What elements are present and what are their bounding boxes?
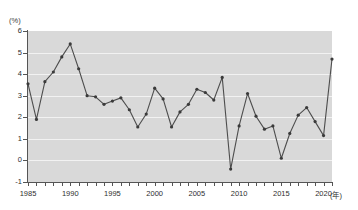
x-tick-mark-1990 [70, 183, 71, 186]
x-tick-mark-2004 [188, 183, 189, 186]
x-tick-label-1995: 1995 [97, 189, 127, 198]
x-tick-label-2005: 2005 [182, 189, 212, 198]
x-tick-mark-2021 [332, 183, 333, 186]
y-tick-label-6: 6 [2, 27, 22, 35]
y-tick-label-4: 4 [2, 70, 22, 78]
y-tick-mark-2 [23, 117, 27, 118]
x-tick-mark-2013 [264, 183, 265, 186]
x-tick-mark-2008 [222, 183, 223, 186]
y-tick-mark-6 [23, 31, 27, 32]
x-tick-mark-1999 [146, 183, 147, 186]
x-tick-mark-1991 [79, 183, 80, 186]
x-tick-label-2010: 2010 [224, 189, 254, 198]
gridline-y-0 [28, 160, 332, 161]
x-tick-mark-2019 [315, 183, 316, 186]
x-tick-mark-1987 [45, 183, 46, 186]
y-tick-mark-3 [23, 96, 27, 97]
gridline-y-5 [28, 53, 332, 54]
x-tick-label-2000: 2000 [140, 189, 170, 198]
x-tick-mark-2017 [298, 183, 299, 186]
x-axis-unit-label: (年) [330, 189, 342, 200]
x-tick-mark-1992 [87, 183, 88, 186]
x-tick-mark-2003 [180, 183, 181, 186]
y-tick-mark-5 [23, 53, 27, 54]
x-tick-label-1990: 1990 [55, 189, 85, 198]
x-tick-mark-2010 [239, 183, 240, 186]
x-tick-mark-1995 [112, 183, 113, 186]
x-tick-mark-2016 [290, 183, 291, 186]
y-tick-mark-1 [23, 139, 27, 140]
x-tick-mark-2014 [273, 183, 274, 186]
x-tick-mark-2020 [324, 183, 325, 186]
x-tick-mark-2012 [256, 183, 257, 186]
y-tick-label-1: 1 [2, 135, 22, 143]
y-tick-label-0: 0 [2, 156, 22, 164]
y-tick-mark-4 [23, 74, 27, 75]
gridline-y-3 [28, 96, 332, 97]
y-tick-mark--1 [23, 182, 27, 183]
gridline-y-1 [28, 139, 332, 140]
x-tick-mark-1996 [121, 183, 122, 186]
x-tick-mark-1989 [62, 183, 63, 186]
x-tick-mark-2007 [214, 183, 215, 186]
x-tick-mark-2000 [155, 183, 156, 186]
gridline-y-2 [28, 117, 332, 118]
x-tick-label-2015: 2015 [266, 189, 296, 198]
y-tick-label-5: 5 [2, 49, 22, 57]
chart-figure: (%) 6543210-1 19851990199520002005201020… [0, 0, 358, 210]
x-tick-mark-1998 [138, 183, 139, 186]
y-tick-label--1: -1 [2, 178, 22, 186]
x-tick-mark-2009 [231, 183, 232, 186]
gridline-y-4 [28, 74, 332, 75]
y-tick-label-2: 2 [2, 113, 22, 121]
x-tick-mark-2005 [197, 183, 198, 186]
x-tick-mark-2006 [205, 183, 206, 186]
x-tick-label-1985: 1985 [13, 189, 43, 198]
x-tick-mark-1988 [53, 183, 54, 186]
x-tick-mark-1997 [129, 183, 130, 186]
plot-wrapper: 6543210-1 198519901995200020052010201520… [0, 0, 358, 210]
x-tick-mark-2002 [172, 183, 173, 186]
y-axis-line [27, 30, 28, 183]
x-tick-mark-2011 [248, 183, 249, 186]
y-tick-mark-0 [23, 160, 27, 161]
x-tick-mark-1994 [104, 183, 105, 186]
x-tick-mark-1985 [28, 183, 29, 186]
x-tick-mark-1986 [36, 183, 37, 186]
x-tick-mark-2001 [163, 183, 164, 186]
y-tick-label-3: 3 [2, 92, 22, 100]
plot-area [28, 31, 332, 182]
x-tick-mark-2018 [307, 183, 308, 186]
x-tick-mark-2015 [281, 183, 282, 186]
x-tick-mark-1993 [96, 183, 97, 186]
